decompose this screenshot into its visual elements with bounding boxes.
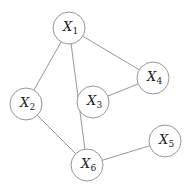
- node-subscript: 5: [169, 139, 175, 149]
- node-label: X: [80, 156, 91, 171]
- node-x3: X3: [77, 86, 109, 118]
- node-x5: X5: [149, 125, 181, 157]
- graph-diagram: X1X2X3X4X5X6: [0, 0, 193, 191]
- node-subscript: 2: [30, 102, 36, 112]
- node-label: X: [158, 132, 169, 147]
- edge-x6-x5: [102, 146, 149, 161]
- node-x1: X1: [53, 12, 85, 44]
- edge-x2-x6: [37, 115, 75, 153]
- node-label: X: [62, 19, 73, 34]
- node-label: X: [86, 93, 97, 108]
- node-x6: X6: [71, 149, 103, 181]
- edge-x3-x4: [108, 84, 138, 96]
- nodes-layer: X1X2X3X4X5X6: [10, 12, 181, 181]
- node-label: X: [146, 69, 157, 84]
- node-subscript: 3: [97, 100, 103, 110]
- node-subscript: 4: [157, 76, 163, 86]
- node-subscript: 1: [73, 26, 79, 36]
- node-x4: X4: [137, 62, 169, 94]
- node-subscript: 6: [91, 163, 97, 173]
- node-label: X: [19, 95, 30, 110]
- node-x2: X2: [10, 88, 42, 120]
- edge-x1-x4: [83, 36, 140, 70]
- edge-x1-x2: [34, 42, 61, 90]
